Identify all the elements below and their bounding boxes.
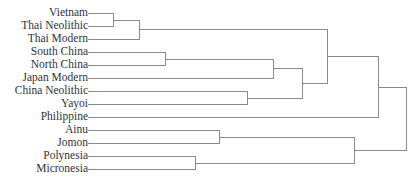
dendrogram bbox=[0, 0, 419, 185]
